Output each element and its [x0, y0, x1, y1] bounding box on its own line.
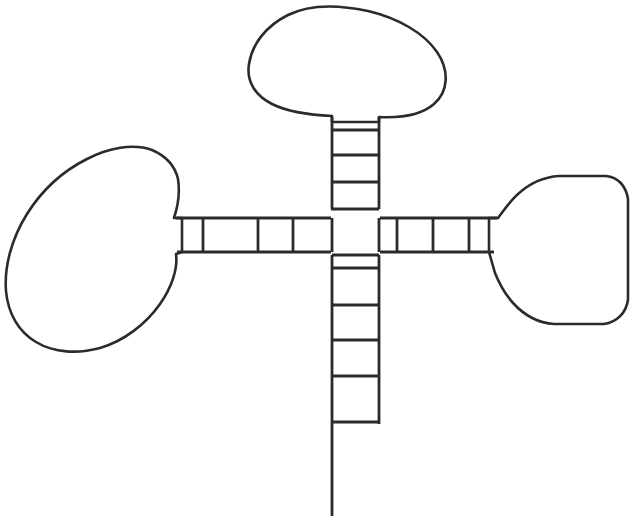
- drawing-canvas: Cross-shaped ladder diagram with three r…: [0, 0, 638, 528]
- figure-svg: Cross-shaped ladder diagram with three r…: [0, 0, 638, 528]
- central-hub-fill: [333, 210, 377, 253]
- central-hub: [331, 209, 379, 255]
